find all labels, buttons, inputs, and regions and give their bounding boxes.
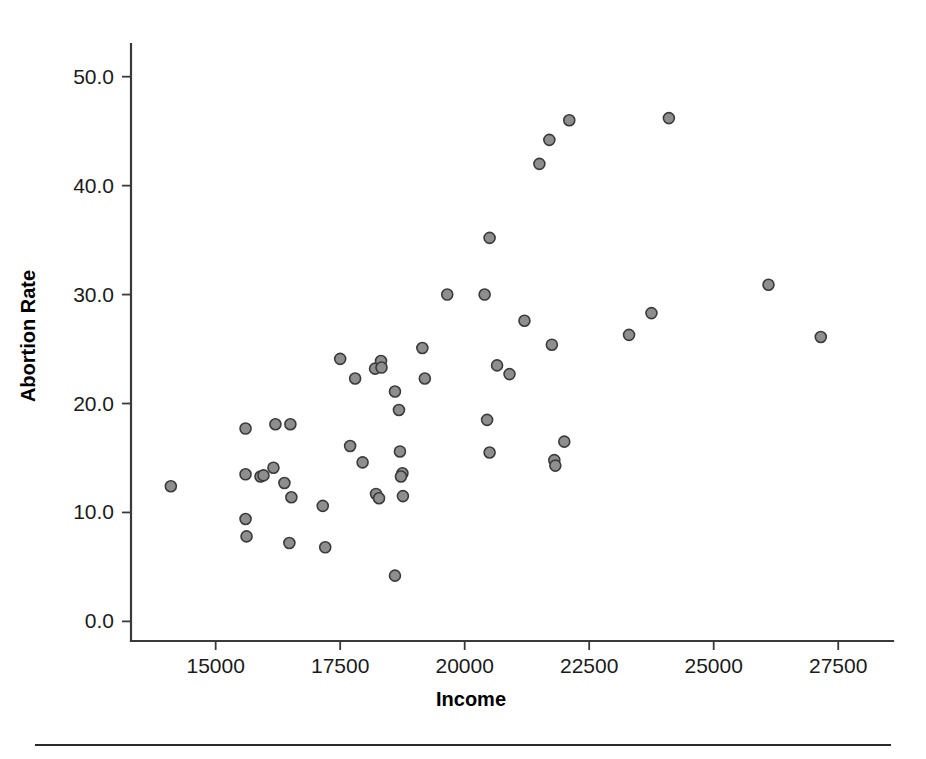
data-point — [286, 492, 297, 503]
data-point — [564, 115, 575, 126]
data-point — [397, 491, 408, 502]
data-point — [389, 386, 400, 397]
data-point — [240, 423, 251, 434]
data-point — [504, 369, 515, 380]
data-point — [317, 500, 328, 511]
data-point — [270, 419, 281, 430]
x-tick-label: 15000 — [186, 654, 244, 677]
data-point — [519, 315, 530, 326]
y-tick-label: 50.0 — [73, 65, 114, 88]
scatter-plot-canvas: 0.010.020.030.040.050.015000175002000022… — [0, 0, 926, 759]
data-point — [284, 537, 295, 548]
data-point — [335, 353, 346, 364]
data-point — [646, 308, 657, 319]
data-point — [763, 279, 774, 290]
data-point — [550, 460, 561, 471]
x-tick-label: 22500 — [560, 654, 618, 677]
y-tick-label: 20.0 — [73, 392, 114, 415]
data-point — [815, 332, 826, 343]
data-point — [279, 478, 290, 489]
data-point — [389, 570, 400, 581]
data-point — [240, 513, 251, 524]
x-tick-label: 17500 — [311, 654, 369, 677]
data-point — [663, 113, 674, 124]
data-point — [394, 446, 405, 457]
data-point — [482, 414, 493, 425]
y-axis-title: Abortion Rate — [17, 270, 39, 402]
data-point — [258, 470, 269, 481]
data-point — [320, 542, 331, 553]
data-point — [374, 493, 385, 504]
y-tick-label: 40.0 — [73, 174, 114, 197]
data-points — [165, 113, 826, 582]
data-point — [268, 462, 279, 473]
data-point — [484, 232, 495, 243]
data-point — [479, 289, 490, 300]
data-point — [393, 405, 404, 416]
data-point — [285, 419, 296, 430]
data-point — [240, 469, 251, 480]
data-point — [350, 373, 361, 384]
data-point — [546, 339, 557, 350]
scatter-plot-figure: 0.010.020.030.040.050.015000175002000022… — [0, 0, 926, 759]
axis-ticks — [122, 77, 838, 650]
data-point — [559, 436, 570, 447]
data-point — [534, 158, 545, 169]
data-point — [417, 342, 428, 353]
x-tick-label: 25000 — [685, 654, 743, 677]
axes — [131, 44, 893, 641]
y-tick-label: 30.0 — [73, 283, 114, 306]
data-point — [376, 362, 387, 373]
data-point — [395, 471, 406, 482]
x-axis-title: Income — [436, 688, 506, 710]
data-point — [484, 447, 495, 458]
data-point — [492, 360, 503, 371]
data-point — [165, 481, 176, 492]
data-point — [357, 457, 368, 468]
data-point — [345, 440, 356, 451]
x-tick-label: 20000 — [435, 654, 493, 677]
y-tick-label: 10.0 — [73, 500, 114, 523]
data-point — [544, 134, 555, 145]
data-point — [241, 531, 252, 542]
data-point — [442, 289, 453, 300]
data-point — [419, 373, 430, 384]
x-tick-label: 27500 — [809, 654, 867, 677]
data-point — [624, 329, 635, 340]
footer-divider — [35, 744, 891, 746]
axis-tick-labels: 0.010.020.030.040.050.015000175002000022… — [73, 65, 867, 677]
y-tick-label: 0.0 — [85, 609, 114, 632]
